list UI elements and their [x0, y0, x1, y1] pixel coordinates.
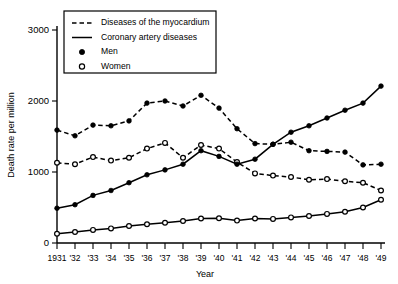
x-axis-title: Year: [196, 269, 214, 279]
data-point: [109, 188, 114, 193]
y-axis: 0100020003000 Death rate per million: [6, 24, 57, 248]
data-point: [73, 162, 78, 167]
x-tick-label: '33: [87, 253, 98, 263]
x-tick-label: '35: [123, 253, 134, 263]
x-tick-label: '38: [177, 253, 188, 263]
data-point: [73, 230, 78, 235]
data-point: [361, 101, 366, 106]
data-point: [145, 146, 150, 151]
x-tick-label: '41: [231, 253, 242, 263]
data-point: [289, 175, 294, 180]
data-point: [163, 168, 168, 173]
data-point: [235, 162, 240, 167]
x-tick-label: '36: [141, 253, 152, 263]
x-tick-label: '44: [285, 253, 296, 263]
legend-open-circle-icon: [79, 64, 84, 69]
data-point: [343, 179, 348, 184]
data-point: [91, 123, 96, 128]
data-point: [181, 104, 186, 109]
data-point: [217, 154, 222, 159]
legend-label: Women: [101, 61, 131, 71]
data-point: [163, 141, 168, 146]
data-point: [91, 155, 96, 160]
data-point: [181, 155, 186, 160]
data-point: [343, 209, 348, 214]
data-point: [307, 124, 312, 129]
legend-filled-circle-icon: [79, 49, 84, 54]
x-axis-ticks: 1931'32'33'34'35'36'37'38'39'40'41'42'43…: [48, 243, 387, 263]
data-point: [199, 216, 204, 221]
data-point: [199, 148, 204, 153]
data-point: [127, 224, 132, 229]
data-point: [271, 142, 276, 147]
data-point: [109, 226, 114, 231]
series-1: [55, 141, 384, 193]
data-point: [271, 173, 276, 178]
data-point: [55, 128, 60, 133]
x-tick-label: 1931: [48, 253, 67, 263]
data-point: [289, 130, 294, 135]
legend-label: Diseases of the myocardium: [101, 17, 209, 27]
data-point: [181, 219, 186, 224]
data-point: [253, 216, 258, 221]
data-point: [379, 197, 384, 202]
data-point: [199, 93, 204, 98]
x-tick-label: '48: [357, 253, 368, 263]
data-point: [55, 160, 60, 165]
data-point: [271, 217, 276, 222]
x-tick-label: '43: [267, 253, 278, 263]
data-point: [253, 157, 258, 162]
y-tick-label: 2000: [28, 95, 49, 106]
data-point: [91, 228, 96, 233]
data-point: [379, 188, 384, 193]
y-tick-label: 0: [44, 237, 49, 248]
x-axis: 1931'32'33'34'35'36'37'38'39'40'41'42'43…: [48, 243, 387, 279]
data-point: [127, 155, 132, 160]
data-point: [343, 108, 348, 113]
data-point: [217, 216, 222, 221]
data-point: [253, 171, 258, 176]
x-tick-label: '32: [69, 253, 80, 263]
x-tick-label: '46: [321, 253, 332, 263]
data-point: [325, 149, 330, 154]
data-point: [91, 193, 96, 198]
x-tick-label: '39: [195, 253, 206, 263]
plot-area: [55, 84, 384, 236]
y-axis-ticks: 0100020003000: [28, 24, 57, 248]
data-point: [235, 218, 240, 223]
legend-label: Men: [101, 46, 118, 56]
data-point: [379, 84, 384, 89]
data-point: [145, 222, 150, 227]
data-point: [163, 99, 168, 104]
data-point: [199, 143, 204, 148]
data-point: [361, 163, 366, 168]
data-point: [145, 101, 150, 106]
data-point: [361, 205, 366, 210]
data-point: [55, 206, 60, 211]
data-point: [253, 141, 258, 146]
x-tick-label: '45: [303, 253, 314, 263]
legend-label: Coronary artery diseases: [101, 32, 197, 42]
data-point: [109, 158, 114, 163]
y-tick-label: 3000: [28, 24, 49, 35]
data-point: [217, 106, 222, 111]
data-point: [325, 177, 330, 182]
y-tick-label: 1000: [28, 166, 49, 177]
data-point: [325, 116, 330, 121]
x-tick-label: '49: [375, 253, 386, 263]
x-tick-label: '47: [339, 253, 350, 263]
x-tick-label: '34: [105, 253, 116, 263]
data-point: [361, 180, 366, 185]
data-point: [127, 180, 132, 185]
data-point: [181, 162, 186, 167]
data-point: [289, 215, 294, 220]
y-axis-title: Death rate per million: [6, 92, 16, 178]
data-point: [127, 119, 132, 124]
data-point: [55, 231, 60, 236]
legend: Diseases of the myocardiumCoronary arter…: [64, 11, 216, 73]
data-point: [163, 220, 168, 225]
data-point: [379, 162, 384, 167]
data-point: [73, 134, 78, 139]
data-point: [307, 177, 312, 182]
x-tick-label: '37: [159, 253, 170, 263]
